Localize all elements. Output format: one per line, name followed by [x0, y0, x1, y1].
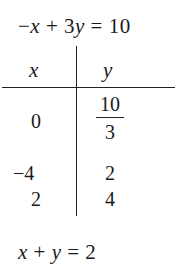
eq-plus-3: + 3 — [40, 14, 75, 38]
column-header-y: y — [103, 58, 112, 83]
equation-title: −x + 3y = 10 — [18, 14, 131, 39]
row-0-x: 0 — [31, 110, 41, 133]
eq-minus: − — [18, 14, 30, 38]
next-equation: x + y = 2 — [18, 240, 96, 265]
row-1-x: −4 — [13, 162, 34, 185]
table-vertical-divider — [76, 46, 77, 216]
eq-var-y: y — [75, 14, 85, 38]
eq2-rhs: = 2 — [62, 240, 97, 264]
fraction-numerator: 10 — [96, 93, 124, 115]
fraction-denominator: 3 — [96, 121, 124, 143]
row-1-y: 2 — [105, 162, 115, 185]
eq-rhs: = 10 — [85, 14, 131, 38]
eq-var-x: x — [30, 14, 40, 38]
eq2-var-x: x — [18, 240, 28, 264]
row-2-y: 4 — [105, 188, 115, 211]
eq2-var-y: y — [52, 240, 62, 264]
column-header-x: x — [29, 58, 38, 83]
row-2-x: 2 — [31, 188, 41, 211]
row-0-y-fraction: 10 3 — [96, 93, 124, 143]
fraction-bar — [96, 117, 124, 118]
table-header-divider — [2, 87, 175, 88]
eq2-plus: + — [28, 240, 52, 264]
